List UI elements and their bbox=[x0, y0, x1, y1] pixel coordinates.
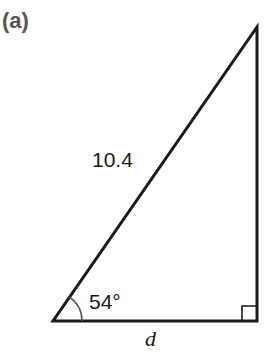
angle-arc bbox=[70, 297, 83, 321]
right-angle-square-icon bbox=[242, 306, 257, 321]
triangle-figure: (a) 10.4 54° d bbox=[0, 0, 266, 352]
angle-label: 54° bbox=[89, 290, 121, 314]
hypotenuse-label: 10.4 bbox=[92, 148, 133, 172]
right-triangle-diagram bbox=[0, 0, 266, 352]
base-label: d bbox=[145, 326, 156, 352]
triangle bbox=[53, 27, 257, 321]
part-label: (a) bbox=[2, 8, 29, 34]
